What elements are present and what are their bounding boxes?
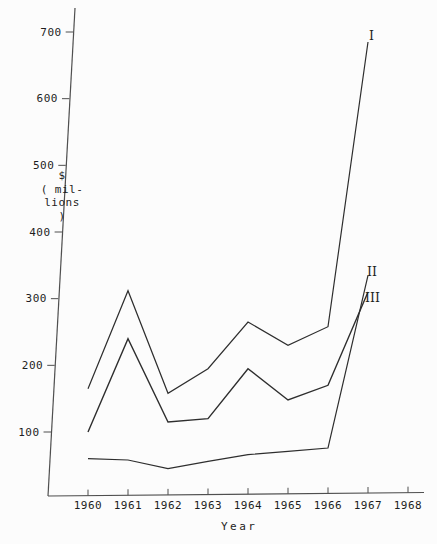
x-tick-label-1967: 1967 [346, 499, 390, 513]
x-tick-label-1961: 1961 [106, 499, 150, 513]
y-tick-label-400: 400 [17, 225, 51, 240]
x-tick-label-1962: 1962 [146, 499, 190, 513]
y-tick-label-500: 500 [20, 158, 54, 173]
series-label-II: II [367, 265, 377, 278]
series-line-II [88, 292, 368, 432]
series-label-III: III [365, 291, 380, 304]
y-axis-title: $ ( mil- lions ) [39, 169, 85, 223]
y-tick-label-300: 300 [13, 291, 47, 306]
y-axis-title-line-3: lions ) [39, 196, 85, 223]
y-tick-label-700: 700 [28, 25, 62, 40]
x-tick-label-1960: 1960 [66, 499, 110, 513]
line-chart-figure: $ ( mil- lions ) Year 100200300400500600… [0, 0, 437, 544]
series-line-III [88, 275, 368, 468]
x-tick-label-1968: 1968 [386, 499, 430, 513]
y-axis-title-line-2: ( mil- [39, 183, 85, 197]
x-tick-label-1966: 1966 [306, 499, 350, 513]
x-tick-label-1965: 1965 [266, 499, 310, 513]
y-tick-label-200: 200 [9, 358, 43, 373]
series-line-I [88, 42, 368, 393]
x-tick-label-1963: 1963 [186, 499, 230, 513]
y-tick-label-600: 600 [24, 91, 58, 106]
x-tick-label-1964: 1964 [226, 499, 270, 513]
x-axis-line [48, 493, 424, 497]
y-axis-line [48, 8, 75, 496]
y-tick-label-100: 100 [6, 425, 40, 440]
series-label-I: I [369, 29, 374, 42]
x-axis-title: Year [221, 520, 258, 533]
